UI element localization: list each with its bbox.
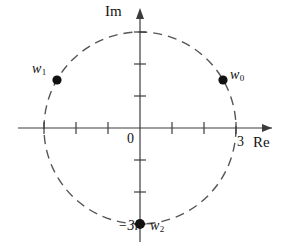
complex-plane-figure: Im Re 0 3 −3i w0 w1 w2 [0, 0, 285, 242]
point-label-w1: w1 [32, 62, 46, 76]
point-label-w0-base: w [230, 67, 239, 82]
point-label-w2: w2 [150, 219, 164, 233]
point-label-w0-subscript: 0 [240, 73, 245, 83]
point-label-w0: w0 [230, 68, 244, 82]
point-label-w1-base: w [32, 61, 41, 76]
point-w0 [218, 75, 227, 84]
real-axis-arrow [262, 124, 272, 132]
origin-label: 0 [127, 132, 134, 146]
point-w1 [52, 75, 61, 84]
point-label-w1-subscript: 1 [42, 67, 47, 77]
plot-canvas [0, 0, 285, 242]
imaginary-tick-label-minus-3i: −3i [118, 219, 138, 233]
imaginary-axis-arrow [136, 8, 144, 19]
imaginary-axis-label: Im [105, 4, 122, 19]
real-tick-label-3: 3 [237, 135, 244, 149]
real-axis-label: Re [253, 135, 270, 150]
point-label-w2-subscript: 2 [160, 224, 165, 234]
point-label-w2-base: w [150, 218, 159, 233]
